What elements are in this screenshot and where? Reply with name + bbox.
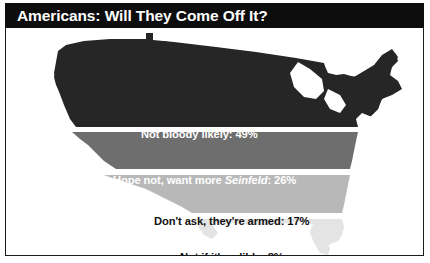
- band-label-4-text: Not if it's edible:: [180, 251, 268, 255]
- band-label-1-value: 49%: [235, 128, 257, 140]
- band-label-2: Hope not, want more Seinfeld: 26%: [113, 174, 296, 186]
- band-label-4: Not if it's edible: 8%: [180, 251, 284, 255]
- map-chart-area: Not bloody likely: 49% Hope not, want mo…: [6, 29, 423, 255]
- band-label-3: Don't ask, they're armed: 17%: [154, 215, 309, 227]
- band-label-3-text: Don't ask, they're armed:: [154, 215, 287, 227]
- band-label-3-value: 17%: [287, 215, 309, 227]
- infographic-figure: Americans: Will They Come Off It?: [0, 0, 430, 263]
- band-label-2-text: Hope not, want more: [113, 174, 225, 186]
- band-label-4-value: 8%: [268, 251, 284, 255]
- band-label-1: Not bloody likely: 49%: [141, 128, 258, 140]
- band-label-2-value: : 26%: [267, 174, 296, 186]
- page-title: Americans: Will They Come Off It?: [17, 7, 268, 25]
- band-label-2-show-title: Seinfeld: [225, 174, 268, 186]
- title-banner: Americans: Will They Come Off It?: [5, 3, 424, 28]
- band-label-1-text: Not bloody likely:: [141, 128, 235, 140]
